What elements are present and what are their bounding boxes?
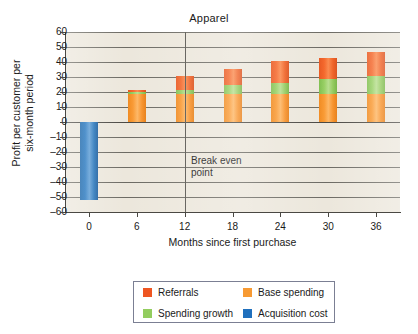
chart-container: Apparel Profit per customer per six-mont… <box>0 0 418 334</box>
x-axis-tick-mark <box>233 212 234 217</box>
break-even-line1: Break even <box>191 155 242 167</box>
bar-30-months <box>319 32 337 212</box>
x-axis-tick-mark <box>376 212 377 217</box>
chart-title: Apparel <box>0 12 418 24</box>
plot-area: Break even point <box>65 32 400 212</box>
legend-item-spending-growth[interactable]: Spending growth <box>134 308 234 319</box>
y-axis-tick-mark <box>60 167 65 168</box>
bar-segment-base-spending <box>367 94 385 123</box>
y-axis-tick-mark <box>60 32 65 33</box>
y-axis-tick-mark <box>60 77 65 78</box>
x-axis-tick-mark <box>185 212 186 217</box>
bar-36-months <box>367 32 385 212</box>
x-axis-tick-mark <box>328 212 329 217</box>
bar-segment-acquisition-cost <box>80 122 98 200</box>
bar-24-months <box>271 32 289 212</box>
bar-segment-referrals <box>128 90 146 92</box>
x-axis-tick-label: 12 <box>170 221 200 232</box>
legend-item-base-spending[interactable]: Base spending <box>234 287 336 298</box>
legend: ReferralsBase spendingSpending growthAcq… <box>133 281 335 323</box>
y-axis-tick-mark <box>60 212 65 213</box>
y-axis-tick-mark <box>60 137 65 138</box>
y-axis-tick-mark <box>60 122 65 123</box>
x-axis-tick-mark <box>137 212 138 217</box>
bar-0-months <box>80 32 98 212</box>
bar-segment-base-spending <box>319 94 337 123</box>
y-axis-tick-mark <box>60 107 65 108</box>
bar-segment-base-spending <box>128 94 146 122</box>
y-axis-tick-mark <box>60 197 65 198</box>
y-axis-tick-mark <box>60 92 65 93</box>
x-axis-tick-mark <box>280 212 281 217</box>
y-axis-tick-mark <box>60 47 65 48</box>
break-even-line2: point <box>191 167 242 179</box>
x-axis-tick-mark <box>89 212 90 217</box>
bar-segment-referrals <box>319 58 337 80</box>
y-axis-tick-mark <box>60 182 65 183</box>
bar-6-months <box>128 32 146 212</box>
x-axis-title: Months since first purchase <box>65 236 400 248</box>
bar-segment-spending-growth <box>271 83 289 94</box>
legend-item-acquisition-cost[interactable]: Acquisition cost <box>234 308 336 319</box>
legend-swatch-icon <box>143 288 152 297</box>
x-axis-tick-label: 18 <box>218 221 248 232</box>
bar-segment-base-spending <box>224 94 242 123</box>
y-axis-tick-mark <box>60 152 65 153</box>
break-even-line <box>185 32 186 212</box>
y-axis-title-line2: six-month period <box>23 28 36 198</box>
legend-swatch-icon <box>143 309 152 318</box>
bar-segment-spending-growth <box>128 92 146 94</box>
legend-swatch-icon <box>243 288 252 297</box>
bar-segment-referrals <box>224 69 242 85</box>
bar-18-months <box>224 32 242 212</box>
x-axis-tick-label: 0 <box>74 221 104 232</box>
legend-label: Spending growth <box>158 308 233 319</box>
legend-swatch-icon <box>243 309 252 318</box>
y-axis-tick-mark <box>60 62 65 63</box>
legend-label: Referrals <box>158 287 199 298</box>
y-axis-title-line1: Profit per customer per <box>10 28 23 198</box>
break-even-annotation: Break even point <box>191 155 242 179</box>
bar-segment-referrals <box>367 52 385 75</box>
y-axis-title: Profit per customer per six-month period <box>10 28 36 198</box>
x-axis-tick-label: 6 <box>122 221 152 232</box>
bar-segment-spending-growth <box>319 79 337 93</box>
bar-segment-spending-growth <box>367 76 385 94</box>
x-axis-tick-label: 24 <box>265 221 295 232</box>
bar-segment-spending-growth <box>224 85 242 94</box>
bar-segment-referrals <box>271 61 289 83</box>
legend-label: Base spending <box>258 287 324 298</box>
legend-label: Acquisition cost <box>258 308 327 319</box>
x-axis-tick-label: 36 <box>361 221 391 232</box>
legend-item-referrals[interactable]: Referrals <box>134 287 234 298</box>
bar-segment-base-spending <box>271 94 289 123</box>
x-axis-tick-label: 30 <box>313 221 343 232</box>
